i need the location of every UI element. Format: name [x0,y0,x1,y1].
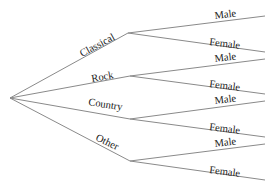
edge-classical-male [128,16,265,33]
leaf-label-other-female: Female [209,164,241,179]
edge-country-male [130,101,265,119]
tree-diagram: Classical Rock Country Other Male Female… [0,0,277,187]
leaf-label-rock-male: Male [214,50,237,64]
edge-other-female [130,161,265,180]
genre-label-rock: Rock [90,69,114,84]
leaf-label-other-male: Male [214,135,237,149]
edge-other-male [130,144,265,161]
genre-label-classical: Classical [78,31,117,59]
genre-labels: Classical Rock Country Other [78,31,124,152]
edge-classical-female [128,33,265,52]
edge-country-female [130,119,265,137]
edge-rock-male [130,59,265,76]
genre-label-country: Country [88,96,124,112]
leaf-label-classical-male: Male [214,7,237,21]
leaf-label-country-female: Female [209,121,241,136]
leaf-labels: Male Female Male Female Male Female Male… [209,7,241,178]
leaf-label-country-male: Male [214,92,237,106]
edge-rock-female [130,76,265,94]
leaf-label-rock-female: Female [209,78,241,93]
leaf-label-classical-female: Female [209,36,241,51]
